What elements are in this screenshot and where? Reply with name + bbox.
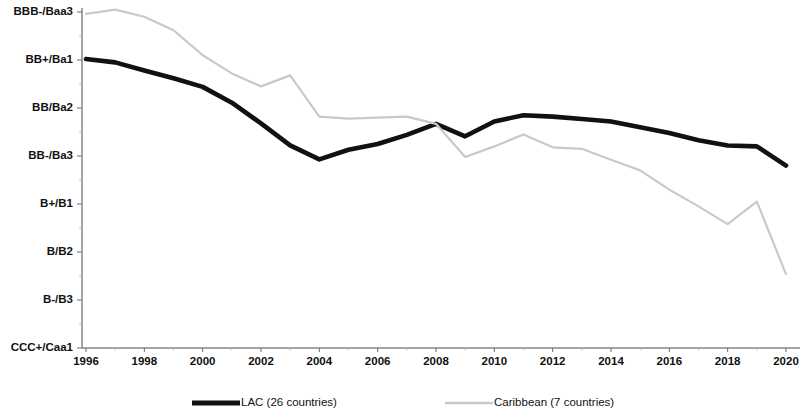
series-line-lac bbox=[86, 59, 786, 166]
x-tick-label: 2020 bbox=[773, 355, 799, 367]
x-tick-label: 2016 bbox=[657, 355, 683, 367]
y-tick-label: B+/B1 bbox=[40, 197, 74, 209]
x-tick-label: 2010 bbox=[482, 355, 508, 367]
x-tick-label: 2002 bbox=[248, 355, 274, 367]
x-tick-label: 2006 bbox=[365, 355, 391, 367]
y-tick-label: BB/Ba2 bbox=[32, 101, 73, 113]
x-tick-label: 2000 bbox=[190, 355, 216, 367]
data-series-group bbox=[86, 10, 786, 274]
x-tick-label: 1998 bbox=[132, 355, 158, 367]
y-tick-label: BBB-/Baa3 bbox=[14, 5, 73, 17]
y-axis: BBB-/Baa3BB+/Ba1BB/Ba2BB-/Ba3B+/B1B/B2B-… bbox=[11, 5, 82, 353]
x-tick-label: 2018 bbox=[715, 355, 741, 367]
y-tick-label: CCC+/Caa1 bbox=[11, 341, 74, 353]
x-tick-label: 1996 bbox=[73, 355, 99, 367]
y-tick-label: B-/B3 bbox=[43, 293, 73, 305]
y-tick-label: B/B2 bbox=[47, 245, 73, 257]
chart-legend: LAC (26 countries)Caribbean (7 countries… bbox=[192, 396, 614, 408]
x-tick-label: 2004 bbox=[307, 355, 333, 367]
x-tick-label: 2012 bbox=[540, 355, 566, 367]
legend-label: Caribbean (7 countries) bbox=[494, 396, 614, 408]
x-axis: 1996199820002002200420062008201020122014… bbox=[73, 348, 800, 367]
credit-rating-line-chart: BBB-/Baa3BB+/Ba1BB/Ba2BB-/Ba3B+/B1B/B2B-… bbox=[0, 0, 808, 418]
y-tick-label: BB-/Ba3 bbox=[28, 149, 73, 161]
y-tick-label: BB+/Ba1 bbox=[25, 53, 73, 65]
x-tick-label: 2014 bbox=[598, 355, 624, 367]
legend-label: LAC (26 countries) bbox=[241, 396, 337, 408]
chart-plot-svg: BBB-/Baa3BB+/Ba1BB/Ba2BB-/Ba3B+/B1B/B2B-… bbox=[0, 0, 808, 418]
x-tick-label: 2008 bbox=[423, 355, 449, 367]
series-line-caribbean bbox=[86, 10, 786, 274]
